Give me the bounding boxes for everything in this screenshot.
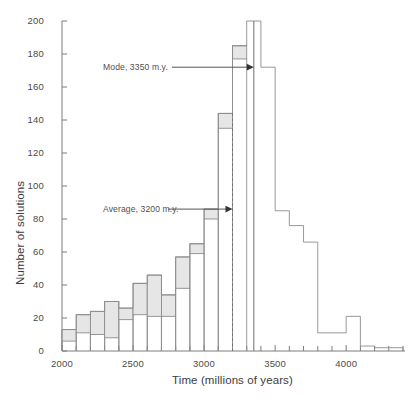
y-tick-label: 180 — [18, 48, 44, 59]
annotation-mode-label: Mode, 3350 m.y. — [103, 62, 168, 72]
annotation-average-label: Average, 3200 m.y. — [103, 204, 179, 214]
y-tick-label: 120 — [18, 147, 44, 158]
y-tick-label: 80 — [18, 213, 44, 224]
histogram-plot — [0, 0, 409, 403]
y-tick-label: 100 — [18, 180, 44, 191]
chart-figure: Number of solutions 200 180 160 140 120 … — [0, 0, 409, 403]
x-tick-label: 2000 — [40, 358, 84, 369]
y-tick-label: 60 — [18, 246, 44, 257]
y-tick-label: 140 — [18, 114, 44, 125]
x-tick-label: 4000 — [324, 358, 368, 369]
x-axis-title: Time (millions of years) — [52, 374, 409, 386]
y-tick-label: 40 — [18, 279, 44, 290]
y-tick-label: 200 — [18, 15, 44, 26]
y-axis-title: Number of solutions — [14, 181, 26, 285]
y-tick-label: 160 — [18, 81, 44, 92]
y-tick-label: 20 — [18, 312, 44, 323]
x-tick-label: 2500 — [111, 358, 155, 369]
y-tick-label: 0 — [18, 345, 44, 356]
x-tick-label: 3500 — [253, 358, 297, 369]
x-tick-label: 3000 — [182, 358, 226, 369]
